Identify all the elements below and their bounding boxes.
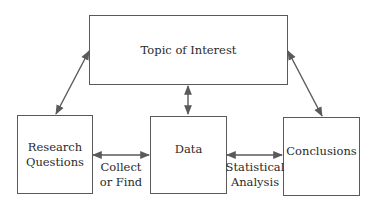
collect-line1: Collect (96, 160, 146, 175)
topic-of-interest-box: Topic of Interest (89, 15, 288, 85)
conclusions-label: Conclusions (286, 144, 356, 159)
collect-line2: or Find (96, 175, 146, 190)
arrow-topic-research (56, 51, 89, 114)
research-label-line1: Research (28, 140, 82, 155)
research-label-line2: Questions (26, 155, 84, 170)
stats-line2: Analysis (225, 175, 285, 190)
collect-or-find-label: Collect or Find (96, 160, 146, 190)
topic-label: Topic of Interest (141, 43, 237, 58)
stats-line1: Statistical (225, 160, 285, 175)
arrow-topic-conclusions (288, 51, 322, 116)
statistical-analysis-label: Statistical Analysis (225, 160, 285, 190)
conclusions-box: Conclusions (283, 117, 360, 196)
research-questions-box: Research Questions (17, 115, 93, 194)
data-label: Data (175, 142, 203, 157)
data-box: Data (150, 116, 227, 194)
